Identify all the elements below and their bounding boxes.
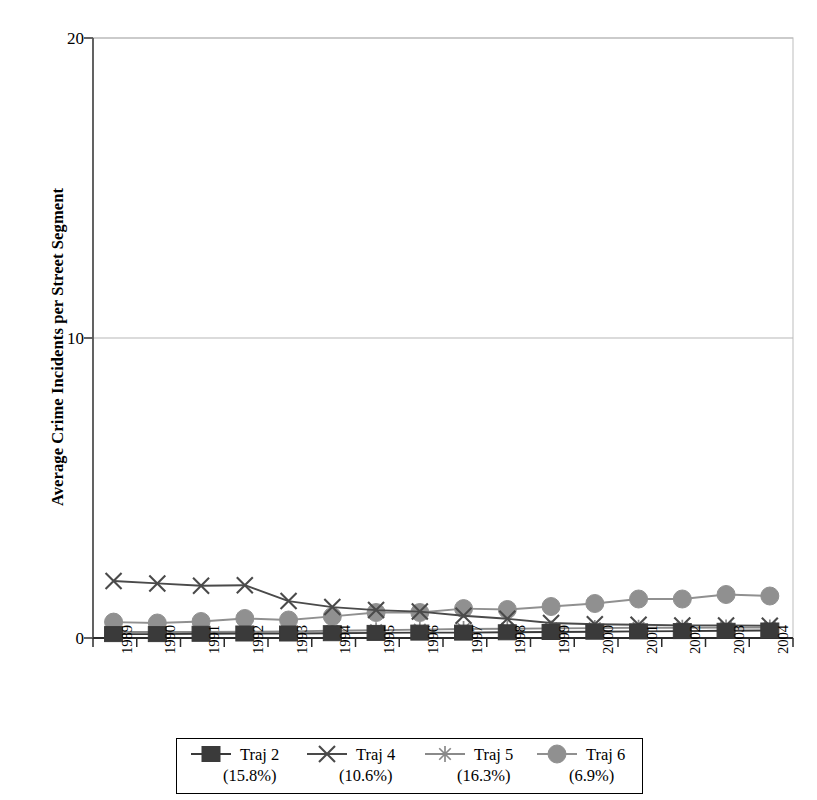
data-point	[673, 590, 691, 608]
legend-percent: (15.8%)	[189, 765, 313, 786]
legend-label: Traj 4	[356, 745, 395, 764]
data-point	[542, 598, 560, 616]
legend-percent: (6.9%)	[535, 765, 659, 786]
x-tick-label: 2000	[601, 625, 616, 654]
x-tick-label: 1999	[557, 625, 572, 654]
legend-marker-circle-icon	[535, 744, 579, 764]
data-point	[586, 595, 604, 613]
legend-marker-square-icon	[189, 744, 233, 764]
legend-marker	[548, 745, 566, 763]
legend-entry[interactable]: Traj 4(10.6%)	[305, 742, 395, 786]
legend-entry[interactable]: Traj 6(6.9%)	[535, 742, 625, 786]
data-point	[761, 587, 779, 605]
x-tick-label: 2003	[732, 625, 747, 654]
legend-percent: (10.6%)	[305, 765, 429, 786]
x-tick-label: 2001	[645, 625, 660, 654]
legend-label: Traj 2	[240, 745, 279, 764]
legend-marker	[437, 746, 453, 762]
x-tick-label: 1989	[120, 625, 135, 654]
legend-label: Traj 5	[474, 745, 513, 764]
x-tick-label: 1991	[207, 625, 222, 654]
chart-legend: Traj 2(15.8%)Traj 4(10.6%)Traj 5(16.3%)T…	[176, 738, 643, 794]
legend-percent: (16.3%)	[423, 765, 547, 786]
data-point	[367, 604, 385, 622]
legend-row-top: Traj 6	[535, 742, 625, 765]
grid-layer	[93, 38, 793, 638]
x-tick-label: 1996	[426, 625, 441, 654]
legend-row-top: Traj 4	[305, 742, 395, 765]
data-point	[498, 601, 516, 619]
legend-entry[interactable]: Traj 2(15.8%)	[189, 742, 279, 786]
data-point	[630, 590, 648, 608]
x-tick-label: 1995	[382, 625, 397, 654]
data-point	[717, 586, 735, 604]
x-tick-label: 2002	[688, 625, 703, 654]
x-tick-label: 1997	[470, 625, 485, 654]
x-tick-label: 1998	[513, 625, 528, 654]
legend-label: Traj 6	[586, 745, 625, 764]
data-point	[323, 607, 341, 625]
x-tick-label: 1994	[338, 625, 353, 654]
legend-marker-asterisk-icon	[423, 744, 467, 764]
x-tick-label: 1993	[295, 625, 310, 654]
plot-canvas	[0, 0, 817, 800]
legend-entry[interactable]: Traj 5(16.3%)	[423, 742, 513, 786]
legend-marker-x-icon	[305, 744, 349, 764]
x-tick-label: 1990	[163, 625, 178, 654]
legend-marker	[202, 747, 220, 762]
legend-row-top: Traj 5	[423, 742, 513, 765]
x-tick-label: 2004	[776, 625, 791, 654]
legend-row-top: Traj 2	[189, 742, 279, 765]
chart-figure: Average Crime Incidents per Street Segme…	[0, 0, 817, 800]
x-tick-label: 1992	[251, 625, 266, 654]
